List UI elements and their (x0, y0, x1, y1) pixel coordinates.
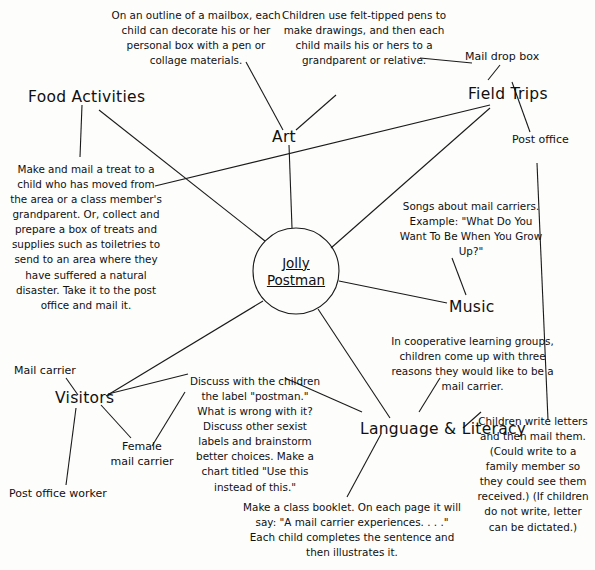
topic-food-activities[interactable]: Food Activities (28, 87, 145, 107)
leader-music-note (452, 258, 466, 295)
spoke-art (289, 145, 292, 228)
center-node[interactable]: Jolly Postman (253, 228, 339, 314)
leader-mail-drop-box (488, 65, 500, 80)
subnode-mail-drop-box[interactable]: Mail drop box (465, 50, 539, 65)
mind-map-canvas: Jolly Postman Food Activities Art Field … (0, 0, 595, 570)
subnode-mail-carrier[interactable]: Mail carrier (14, 364, 76, 379)
leader-female-mail-carrier (101, 405, 131, 438)
topic-field-trips[interactable]: Field Trips (468, 84, 548, 104)
note-art-felt-tipped: Children use felt-tipped pens to make dr… (280, 8, 448, 68)
leader-food-crossline (155, 105, 490, 186)
note-write-letters: Children write letters and then mail the… (474, 414, 592, 535)
center-title-line-1: Jolly (282, 255, 310, 271)
note-music-songs: Songs about mail carriers. Example: "Wha… (396, 199, 546, 259)
leader-class-booklet-note (347, 434, 381, 497)
note-art-mailbox: On an outline of a mailbox, each child c… (110, 8, 282, 68)
note-class-booklet: Make a class booklet. On each page it wi… (243, 500, 461, 560)
topic-visitors[interactable]: Visitors (55, 388, 114, 408)
leader-food-note (80, 105, 82, 157)
subnode-post-office-worker[interactable]: Post office worker (9, 487, 107, 502)
leader-post-office-worker (66, 408, 76, 485)
subnode-post-office[interactable]: Post office (512, 133, 569, 148)
leader-art-felt-note (296, 95, 336, 130)
note-postman-label: Discuss with the children the label "pos… (187, 374, 323, 495)
spoke-music (339, 281, 447, 303)
spoke-language-literacy (318, 309, 390, 418)
leader-postman-note-left (152, 392, 185, 446)
center-title-line-2: Postman (267, 272, 325, 288)
subnode-female-mail-carrier[interactable]: Female mail carrier (104, 440, 180, 469)
subnode-female-mail-carrier-line-1: Female (104, 440, 180, 455)
topic-music[interactable]: Music (449, 297, 495, 317)
topic-art[interactable]: Art (272, 127, 296, 147)
note-cooperative-groups: In cooperative learning groups, children… (386, 334, 559, 394)
leader-visitors-to-postman-note (108, 374, 188, 394)
subnode-female-mail-carrier-line-2: mail carrier (104, 455, 180, 470)
note-food-treat: Make and mail a treat to a child who has… (10, 162, 162, 313)
leader-art-mailbox-note (246, 62, 283, 130)
